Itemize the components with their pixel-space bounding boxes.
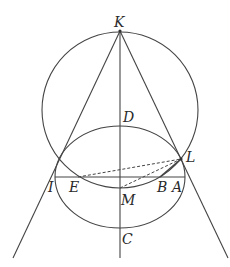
geometry-diagram: K D L I E B A M C [0, 0, 230, 267]
line-K-right [120, 31, 228, 258]
label-D: D [122, 109, 134, 125]
label-L: L [185, 149, 195, 165]
dashed-EL [78, 159, 181, 177]
line-K-left [13, 31, 120, 258]
label-A: A [170, 179, 182, 195]
label-I: I [47, 179, 54, 195]
label-K: K [113, 14, 126, 30]
point-L-dot [179, 157, 182, 160]
label-C: C [122, 231, 133, 247]
label-M: M [120, 192, 136, 208]
label-E: E [68, 179, 79, 195]
label-B: B [156, 179, 167, 195]
